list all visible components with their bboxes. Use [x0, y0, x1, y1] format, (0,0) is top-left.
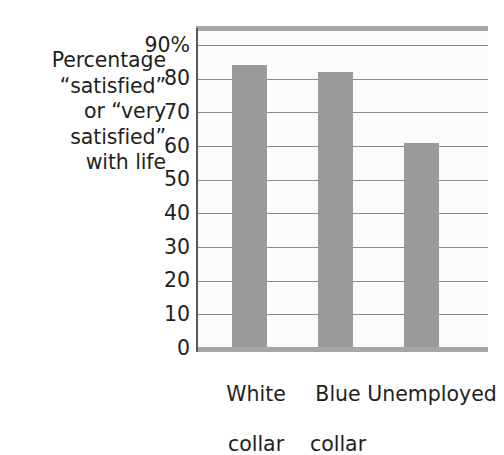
y-tick-30: 30: [128, 237, 190, 258]
x-label-white-collar-line-1: White: [226, 382, 286, 406]
plot-baseline-band: [196, 347, 488, 352]
gridline-90: [196, 45, 488, 46]
plot-top-band: [196, 26, 488, 31]
y-axis-tick-labels: 90% 80 70 60 50 40 30 20 10 0: [124, 0, 190, 415]
x-label-blue-collar-line-2: collar: [310, 432, 366, 455]
y-tick-70: 70: [128, 102, 190, 123]
y-tick-20: 20: [128, 270, 190, 291]
y-axis-spine: [196, 28, 198, 352]
plot-area: [196, 26, 488, 352]
y-tick-0: 0: [128, 338, 190, 359]
y-tick-60: 60: [128, 136, 190, 157]
x-label-unemployed-line-1: Unemployed: [367, 382, 497, 406]
y-tick-10: 10: [128, 304, 190, 325]
y-tick-90: 90%: [128, 35, 190, 56]
x-label-white-collar-line-2: collar: [228, 432, 284, 455]
x-label-unemployed: Unemployed: [367, 357, 497, 407]
y-tick-80: 80: [128, 68, 190, 89]
bar-blue-collar: [318, 72, 353, 348]
x-label-blue-collar-line-1: Blue: [315, 382, 360, 406]
y-tick-50: 50: [128, 169, 190, 190]
bar-white-collar: [232, 65, 267, 348]
bar-unemployed: [404, 143, 439, 348]
y-tick-40: 40: [128, 203, 190, 224]
